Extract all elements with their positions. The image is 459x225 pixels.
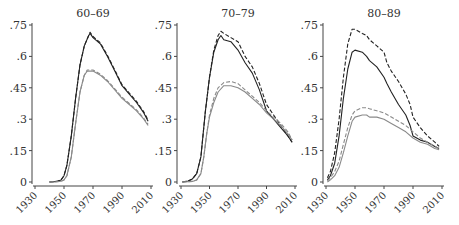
x-tick-label: 1990 bbox=[245, 190, 271, 216]
x-axis: 19301950197019902010 bbox=[14, 186, 156, 215]
series-group bbox=[50, 32, 149, 182]
series-dark-dashed bbox=[327, 29, 439, 178]
y-tick-label: .3 bbox=[162, 113, 173, 126]
y-tick-label: .6 bbox=[17, 50, 28, 63]
x-tick-label: 1930 bbox=[160, 190, 186, 216]
y-tick-label: .6 bbox=[308, 50, 319, 63]
y-tick-label: .75 bbox=[10, 19, 28, 32]
y-tick-label: .75 bbox=[155, 19, 173, 32]
x-axis: 19301950197019902010 bbox=[160, 186, 300, 215]
y-tick-label: 0 bbox=[20, 176, 27, 189]
series-dark-solid bbox=[182, 36, 292, 183]
series-light-dashed bbox=[50, 70, 149, 182]
x-tick-label: 1970 bbox=[363, 190, 389, 216]
x-tick-label: 1930 bbox=[305, 190, 331, 216]
small-multiples-figure: 60–69 0.15.3.45.6.7519301950197019902010… bbox=[0, 0, 459, 225]
y-tick-label: .45 bbox=[301, 82, 319, 95]
y-axis: 0.15.3.45.6.75 bbox=[155, 19, 178, 189]
y-tick-label: .6 bbox=[162, 50, 173, 63]
panel-70-79: 70–79 0.15.3.45.6.7519301950197019902010 bbox=[155, 7, 300, 215]
y-tick-label: .15 bbox=[155, 145, 173, 158]
x-tick-label: 1990 bbox=[101, 190, 127, 216]
series-group bbox=[182, 31, 292, 182]
y-tick-label: .3 bbox=[17, 113, 28, 126]
x-tick-label: 1970 bbox=[72, 190, 98, 216]
series-light-solid bbox=[182, 86, 292, 182]
y-tick-label: .45 bbox=[10, 82, 28, 95]
x-tick-label: 1930 bbox=[14, 190, 40, 216]
panel-title: 80–89 bbox=[367, 7, 401, 20]
y-tick-label: .15 bbox=[10, 145, 28, 158]
figure-canvas: 60–69 0.15.3.45.6.7519301950197019902010… bbox=[0, 0, 459, 225]
x-tick-label: 1950 bbox=[43, 190, 69, 216]
x-tick-label: 2010 bbox=[274, 190, 300, 216]
x-tick-label: 2010 bbox=[130, 190, 156, 216]
y-axis: 0.15.3.45.6.75 bbox=[301, 19, 324, 189]
y-axis: 0.15.3.45.6.75 bbox=[10, 19, 33, 189]
y-tick-label: .3 bbox=[308, 113, 319, 126]
y-tick-label: 0 bbox=[165, 176, 172, 189]
x-tick-label: 1950 bbox=[334, 190, 360, 216]
panel-title: 70–79 bbox=[221, 7, 255, 20]
series-dark-dashed bbox=[182, 31, 292, 182]
series-light-solid bbox=[50, 71, 149, 182]
panel-title: 60–69 bbox=[76, 7, 110, 20]
x-tick-label: 1970 bbox=[217, 190, 243, 216]
panel-60-69: 60–69 0.15.3.45.6.7519301950197019902010 bbox=[10, 7, 156, 215]
x-tick-label: 1990 bbox=[392, 190, 418, 216]
y-tick-label: .45 bbox=[155, 82, 173, 95]
x-tick-label: 2010 bbox=[421, 190, 447, 216]
x-axis: 19301950197019902010 bbox=[305, 186, 447, 215]
y-tick-label: 0 bbox=[311, 176, 318, 189]
panel-80-89: 80–89 0.15.3.45.6.7519301950197019902010 bbox=[301, 7, 447, 215]
y-tick-label: .15 bbox=[301, 145, 319, 158]
x-tick-label: 1950 bbox=[188, 190, 214, 216]
series-light-solid bbox=[327, 115, 439, 182]
y-tick-label: .75 bbox=[301, 19, 319, 32]
series-group bbox=[327, 29, 439, 182]
